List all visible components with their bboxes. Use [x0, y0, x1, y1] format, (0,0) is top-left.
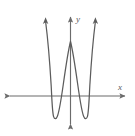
coordinate-plane-svg: x y [0, 0, 135, 136]
y-axis-label: y [75, 14, 80, 24]
x-axis-label: x [117, 82, 122, 92]
graph-figure: x y [0, 0, 135, 136]
